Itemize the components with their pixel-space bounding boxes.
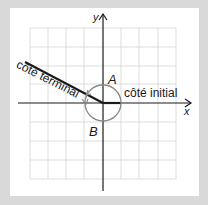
coordinate-plane bbox=[0, 0, 208, 205]
initial-side-label: côté initial bbox=[124, 87, 177, 99]
angle-b-label: B bbox=[89, 125, 98, 138]
y-axis-label: y bbox=[93, 12, 99, 23]
angle-a-label: A bbox=[108, 73, 117, 86]
x-axis-label: x bbox=[184, 106, 190, 117]
